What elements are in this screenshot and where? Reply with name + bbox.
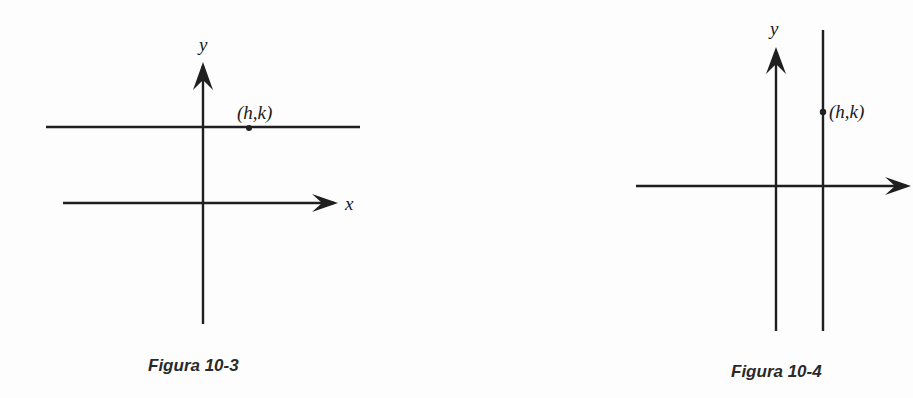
figure-10-4 bbox=[636, 30, 911, 331]
x-axis-label: x bbox=[344, 193, 354, 214]
diagram-canvas: y x (h,k) y (h,k) bbox=[0, 0, 913, 398]
point-label: (h,k) bbox=[237, 102, 272, 124]
caption-figure-10-4: Figura 10-4 bbox=[731, 362, 822, 382]
point-hk bbox=[820, 109, 826, 115]
point-label: (h,k) bbox=[829, 101, 864, 123]
y-axis-label: y bbox=[768, 18, 779, 39]
point-hk bbox=[246, 125, 252, 131]
y-axis-label: y bbox=[197, 34, 208, 55]
caption-figure-10-3: Figura 10-3 bbox=[148, 356, 239, 376]
figure-10-3 bbox=[46, 62, 360, 324]
